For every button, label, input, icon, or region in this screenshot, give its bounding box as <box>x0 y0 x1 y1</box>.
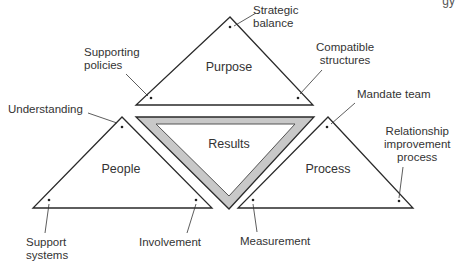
supporting-policies-line2: policies <box>84 59 140 72</box>
involvement-label: Involvement <box>139 236 201 249</box>
rip-line1: Relationship <box>384 125 450 138</box>
strategic-balance-label: Strategic balance <box>253 4 298 30</box>
relationship-improvement-process-label: Relationship improvement process <box>384 125 450 164</box>
rip-line3: process <box>384 151 450 164</box>
purpose-title: Purpose <box>206 60 253 74</box>
results-title: Results <box>208 137 250 151</box>
measurement-label: Measurement <box>240 235 310 248</box>
supporting-policies-line1: Supporting <box>84 46 140 59</box>
header-fragment: gy <box>442 0 455 8</box>
compatible-structures-line1: Compatible <box>316 41 374 54</box>
compatible-structures-label: Compatible structures <box>316 41 374 67</box>
support-systems-line1: Support <box>26 236 68 249</box>
process-title: Process <box>305 162 350 176</box>
understanding-label: Understanding <box>8 103 83 116</box>
strategic-balance-line1: Strategic <box>253 4 298 17</box>
mandate-team-label: Mandate team <box>357 88 431 101</box>
people-title: People <box>102 162 141 176</box>
support-systems-line2: systems <box>26 249 68 262</box>
strategic-balance-line2: balance <box>253 17 298 30</box>
support-systems-label: Support systems <box>26 236 68 262</box>
supporting-policies-label: Supporting policies <box>84 46 140 72</box>
compatible-structures-line2: structures <box>316 54 374 67</box>
rip-line2: improvement <box>384 138 450 151</box>
